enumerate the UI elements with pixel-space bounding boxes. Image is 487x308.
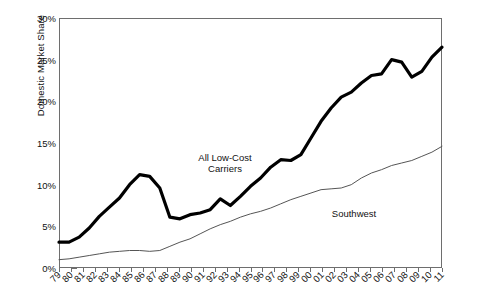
x-axis-tick-labels: 7980818283848586878889909192939495969798… (59, 269, 442, 308)
annotation-all-low-cost-carriers: All Low-Cost Carriers (186, 152, 264, 174)
chart-container: Domestic Market Share 0%5%10%15%20%25%30… (0, 0, 487, 308)
annotation-southwest: Southwest (319, 208, 389, 219)
